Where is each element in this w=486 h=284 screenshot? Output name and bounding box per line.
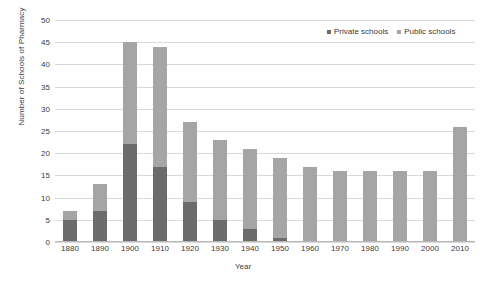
x-axis-tick-label: 1990 <box>391 244 409 253</box>
legend-label: Public schools <box>404 27 455 36</box>
bar-segment <box>93 211 107 242</box>
bar-segment <box>393 171 407 242</box>
bar-segment <box>453 127 467 242</box>
bar-column <box>123 42 137 242</box>
bar-column <box>153 47 167 242</box>
x-axis-tick-label: 1880 <box>61 244 79 253</box>
x-axis-tick-label: 1920 <box>181 244 199 253</box>
x-axis-tick-label: 1960 <box>301 244 319 253</box>
plot-area <box>55 20 475 242</box>
gridline <box>55 242 475 243</box>
x-axis-title: Year <box>0 262 486 271</box>
bar-column <box>273 158 287 242</box>
x-axis-tick-label: 1950 <box>271 244 289 253</box>
y-axis-tick-label: 30 <box>20 104 50 113</box>
bar-segment <box>213 140 227 220</box>
x-axis-tick-label: 1930 <box>211 244 229 253</box>
bar-column <box>393 171 407 242</box>
bar-column <box>363 171 377 242</box>
bar-column <box>303 167 317 242</box>
bar-segment <box>183 122 197 202</box>
x-axis-tick-label: 2000 <box>421 244 439 253</box>
y-axis-tick-label: 15 <box>20 171 50 180</box>
chart-legend: Private schoolsPublic schools <box>327 27 455 36</box>
bar-segment <box>243 149 257 229</box>
y-axis-tick-label: 45 <box>20 38 50 47</box>
bar-column <box>243 149 257 242</box>
x-axis-tick-label: 1890 <box>91 244 109 253</box>
x-axis-line <box>55 241 475 242</box>
bar-segment <box>63 220 77 242</box>
y-axis-tick-label: 40 <box>20 60 50 69</box>
y-axis-tick-label: 5 <box>20 215 50 224</box>
chart-container: Number of Schools of Pharmacy Year 05101… <box>0 0 486 284</box>
legend-swatch-icon <box>327 30 331 34</box>
y-axis-tick-labels: 05101520253035404550 <box>20 20 50 242</box>
y-axis-tick-label: 10 <box>20 193 50 202</box>
legend-label: Private schools <box>334 27 388 36</box>
bar-segment <box>333 171 347 242</box>
bar-segment <box>363 171 377 242</box>
x-axis-tick-label: 1970 <box>331 244 349 253</box>
bar-segment <box>93 184 107 211</box>
bar-segment <box>153 167 167 242</box>
bar-column <box>213 140 227 242</box>
bar-column <box>63 211 77 242</box>
x-axis-tick-label: 1900 <box>121 244 139 253</box>
legend-item[interactable]: Public schools <box>397 27 455 36</box>
bar-column <box>93 184 107 242</box>
x-axis-tick-labels: 1880189019001910192019301940195019601970… <box>55 244 475 258</box>
y-axis-tick-label: 0 <box>20 238 50 247</box>
x-axis-tick-label: 1910 <box>151 244 169 253</box>
bar-segment <box>123 42 137 144</box>
bar-segment <box>273 158 287 238</box>
bar-segment <box>153 47 167 167</box>
y-axis-tick-label: 25 <box>20 127 50 136</box>
bar-segment <box>303 167 317 242</box>
bar-segment <box>423 171 437 242</box>
bar-column <box>333 171 347 242</box>
x-axis-tick-label: 2010 <box>451 244 469 253</box>
bar-segment <box>123 144 137 242</box>
x-axis-tick-label: 1940 <box>241 244 259 253</box>
y-axis-tick-label: 50 <box>20 16 50 25</box>
bar-column <box>423 171 437 242</box>
x-axis-tick-label: 1980 <box>361 244 379 253</box>
y-axis-tick-label: 20 <box>20 149 50 158</box>
bar-series <box>55 20 475 242</box>
bar-column <box>183 122 197 242</box>
bar-segment <box>63 211 77 220</box>
legend-item[interactable]: Private schools <box>327 27 388 36</box>
bar-segment <box>183 202 197 242</box>
bar-segment <box>243 229 257 242</box>
y-axis-tick-label: 35 <box>20 82 50 91</box>
bar-segment <box>213 220 227 242</box>
legend-swatch-icon <box>397 30 401 34</box>
bar-column <box>453 127 467 242</box>
